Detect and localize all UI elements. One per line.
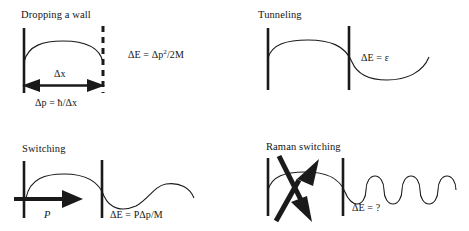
width-arrow-head-right: [87, 79, 105, 92]
arrow-down-right-head: [291, 196, 312, 222]
wavefunction-curve: [24, 41, 103, 62]
energy-formula-dropping-a-wall: ΔE = Δp2/2M: [128, 50, 184, 60]
raman-switching-graphic: [235, 116, 469, 231]
energy-formula-tail: /2M: [167, 49, 184, 60]
tunneling-graphic: [235, 0, 469, 116]
panel-dropping-a-wall: Dropping a wall Δx Δp = ħ/Δx ΔE = Δp2/2M: [0, 0, 235, 116]
delta-x-label: Δx: [54, 69, 65, 79]
panel-switching: Switching P ΔE = PΔp/M: [0, 116, 235, 231]
momentum-label: P: [44, 210, 50, 221]
momentum-arrow-head: [62, 190, 83, 208]
energy-formula-raman-switching: ΔE = ?: [352, 203, 380, 213]
figure-root: Dropping a wall Δx Δp = ħ/Δx ΔE = Δp2/2M…: [0, 0, 469, 231]
switching-curve: [26, 174, 194, 209]
momentum-formula: Δp = ħ/Δx: [35, 98, 77, 108]
energy-formula-head: ΔE = Δp: [128, 49, 163, 60]
panel-raman-switching: Raman switching ΔE = ?: [235, 116, 469, 231]
energy-formula-tunneling: ΔE = ε: [361, 53, 389, 63]
panel-tunneling: Tunneling ΔE = ε: [235, 0, 469, 116]
energy-formula-switching: ΔE = PΔp/M: [110, 210, 163, 220]
